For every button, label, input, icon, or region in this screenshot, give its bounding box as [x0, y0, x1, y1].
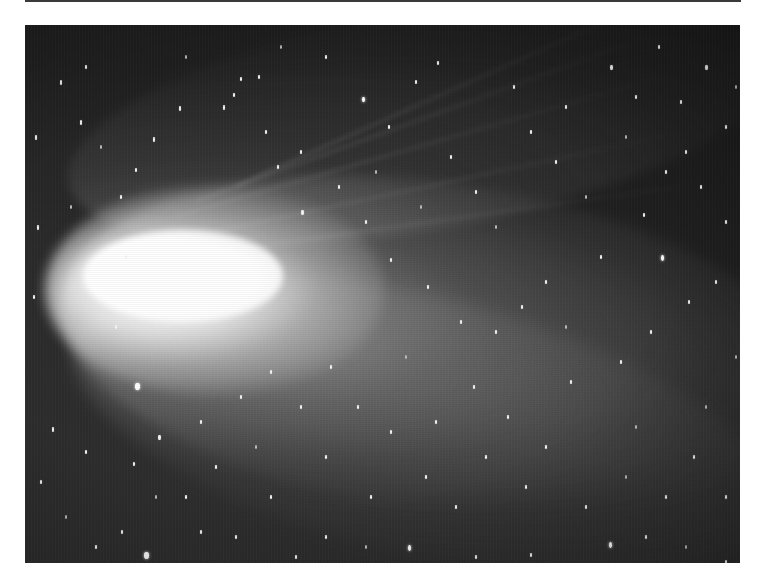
star	[277, 165, 279, 169]
star	[185, 495, 187, 499]
star	[125, 255, 127, 259]
star	[120, 195, 122, 199]
star	[325, 55, 327, 59]
star	[301, 210, 304, 215]
star	[33, 295, 35, 299]
star	[223, 105, 225, 110]
star	[460, 320, 462, 324]
star	[270, 370, 272, 374]
star	[258, 75, 260, 79]
star	[390, 258, 392, 262]
star	[365, 220, 367, 224]
star	[425, 475, 427, 479]
star	[115, 325, 117, 329]
star	[475, 555, 477, 559]
star	[240, 395, 242, 399]
star	[530, 130, 532, 134]
star	[80, 120, 82, 125]
star	[40, 480, 42, 484]
page	[0, 0, 765, 583]
star	[60, 80, 62, 85]
star	[521, 305, 523, 309]
star	[200, 530, 202, 534]
star	[725, 220, 727, 224]
comet-photograph	[25, 25, 740, 563]
star	[300, 150, 302, 154]
star	[295, 555, 297, 559]
star	[635, 425, 637, 429]
star	[155, 495, 157, 499]
star	[300, 405, 302, 409]
star	[153, 137, 155, 142]
star	[235, 535, 237, 539]
star	[240, 77, 242, 81]
star	[85, 65, 87, 69]
star	[408, 545, 411, 551]
star	[635, 95, 637, 99]
star	[185, 55, 187, 59]
star	[370, 495, 372, 499]
star	[495, 225, 497, 229]
star	[52, 427, 54, 432]
star	[609, 542, 612, 548]
star	[530, 553, 532, 557]
star	[555, 160, 557, 164]
star	[658, 45, 660, 49]
star	[427, 285, 429, 289]
star	[455, 505, 457, 509]
star	[362, 97, 365, 102]
star	[665, 495, 667, 499]
star	[705, 405, 707, 409]
star	[255, 445, 257, 449]
star	[135, 168, 137, 172]
star	[158, 435, 161, 440]
star	[473, 385, 475, 389]
star	[270, 495, 272, 499]
star	[415, 80, 417, 84]
star	[680, 100, 682, 104]
star	[705, 65, 708, 70]
star	[495, 330, 497, 334]
star	[688, 300, 690, 304]
star	[735, 85, 737, 89]
star	[280, 45, 282, 49]
star	[545, 445, 547, 449]
star	[661, 255, 664, 261]
star	[338, 185, 340, 189]
star	[565, 325, 567, 329]
star	[330, 365, 332, 369]
star	[325, 535, 327, 539]
star	[625, 475, 627, 479]
star	[725, 495, 727, 499]
star	[475, 190, 477, 194]
star	[450, 155, 452, 159]
star	[525, 485, 527, 489]
star	[437, 61, 439, 65]
star	[100, 145, 102, 149]
star	[357, 405, 359, 409]
star	[645, 535, 647, 539]
star	[650, 330, 652, 334]
star	[85, 450, 87, 454]
star	[215, 465, 217, 469]
star	[585, 195, 587, 199]
star	[375, 170, 377, 174]
star	[200, 420, 202, 424]
star	[507, 415, 509, 419]
star	[700, 185, 702, 189]
star	[570, 380, 572, 384]
star	[610, 65, 613, 70]
star	[144, 552, 149, 559]
star	[121, 530, 123, 534]
star	[643, 213, 645, 217]
star	[420, 205, 422, 209]
star	[35, 135, 37, 140]
star	[735, 355, 737, 359]
star	[179, 106, 181, 111]
star	[485, 455, 487, 459]
star	[625, 135, 627, 139]
star	[685, 545, 687, 549]
star	[37, 225, 39, 230]
star	[70, 205, 72, 209]
star	[365, 545, 367, 549]
